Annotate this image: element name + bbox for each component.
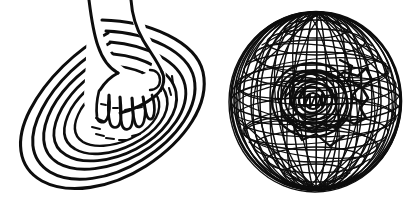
hand-with-splayed-fingers	[84, 0, 166, 129]
illustration-canvas: Hand in concentric ripples and wireframe…	[0, 0, 415, 204]
sphere-outline	[229, 12, 401, 192]
left-panel-hand-in-ripples	[0, 0, 415, 204]
right-panel-wireframe-sphere	[225, 2, 407, 200]
